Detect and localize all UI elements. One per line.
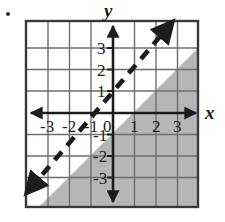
x-tick-label-1: 1 [130, 118, 139, 135]
inequality-graph-figure: y x -3 -2 -1 0 1 2 3 3 2 1 -1 -2 -3 [0, 0, 225, 222]
y-axis-label: y [104, 1, 112, 20]
coordinate-plane [0, 0, 225, 222]
y-tick-label-2: 2 [97, 62, 106, 79]
x-tick-label-3: 3 [173, 118, 182, 135]
y-tick-label-neg3: -3 [93, 170, 107, 187]
y-tick-label-neg2: -2 [93, 148, 107, 165]
y-tick-label-neg1: -1 [93, 127, 107, 144]
x-axis-label: x [205, 103, 215, 122]
x-tick-label-neg3: -3 [40, 118, 54, 135]
y-tick-label-1: 1 [97, 83, 106, 100]
y-tick-label-3: 3 [97, 40, 106, 57]
x-tick-label-neg2: -2 [62, 118, 76, 135]
x-tick-label-2: 2 [152, 118, 161, 135]
